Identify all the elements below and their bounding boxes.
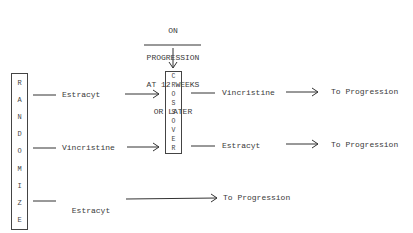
box-letter: R bbox=[17, 79, 21, 87]
box-letter: E bbox=[17, 216, 21, 224]
box-letter: N bbox=[17, 113, 21, 121]
box-letter: O bbox=[17, 147, 21, 155]
box-letter: M bbox=[17, 165, 21, 173]
box-letter: D bbox=[17, 130, 21, 138]
box-letter: E bbox=[172, 136, 176, 143]
box-letter: R bbox=[172, 82, 176, 89]
arm1-endpoint: To Progression bbox=[331, 87, 398, 96]
note-line: PROGRESSION bbox=[140, 53, 206, 62]
arm2-endpoint: To Progression bbox=[331, 140, 398, 149]
box-letter: I bbox=[17, 182, 21, 190]
box-letter: V bbox=[172, 127, 176, 134]
box-letter: S bbox=[172, 109, 176, 116]
crossover-box: C R O S S O V E R bbox=[165, 71, 182, 154]
arm1-drug: Estracyt bbox=[62, 90, 100, 99]
arm2-crossover-drug: Estracyt bbox=[222, 141, 260, 150]
box-letter: O bbox=[172, 91, 176, 98]
arm1-crossover-drug: Vincristine bbox=[222, 88, 275, 97]
box-letter: S bbox=[172, 100, 176, 107]
arm3-drug-line: Estracyt bbox=[60, 206, 122, 215]
box-letter: Z bbox=[17, 199, 21, 207]
box-letter: C bbox=[172, 73, 176, 80]
arm3-arrow bbox=[126, 198, 217, 199]
arm3-endpoint: To Progression bbox=[223, 193, 290, 202]
arm2-drug: Vincristine bbox=[62, 143, 115, 152]
arm3-drug: Estracyt plus Vincristine bbox=[60, 188, 122, 233]
box-letter: O bbox=[172, 118, 176, 125]
box-letter: A bbox=[17, 96, 21, 104]
note-line: ON bbox=[140, 26, 206, 35]
box-letter: R bbox=[172, 145, 176, 152]
randomize-box: R A N D O M I Z E bbox=[11, 73, 28, 230]
